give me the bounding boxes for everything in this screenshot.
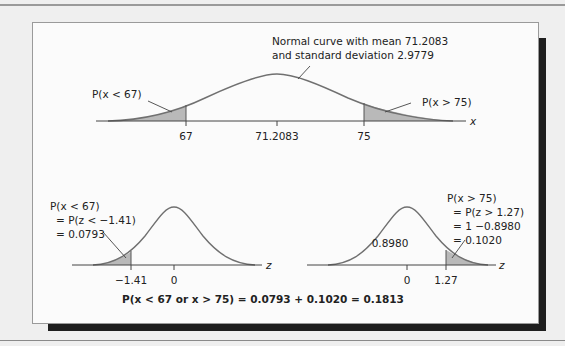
tick-label-neg-1-41: −1.41 [115, 274, 147, 286]
top-normal-curve-plot [96, 66, 466, 126]
bl-line1: P(x < 67) [50, 200, 100, 212]
summary-equation: P(x < 67 or x > 75) = 0.0793 + 0.1020 = … [122, 293, 404, 305]
z-axis-label-right: z [498, 259, 505, 271]
curve-annotation-line1: Normal curve with mean 71.2083 [272, 35, 448, 47]
normal-distribution-figure: Normal curve with mean 71.2083 and stand… [0, 0, 565, 346]
tick-label-mean: 71.2083 [255, 130, 298, 142]
right-area-label: P(x > 75) [422, 96, 472, 108]
center-area-label: 0.8980 [372, 237, 409, 249]
bl-line2: = P(z < −1.41) [56, 214, 136, 226]
br-line4: = 0.1020 [453, 234, 502, 246]
br-line2: = P(z > 1.27) [453, 206, 524, 218]
br-line1: P(x > 75) [447, 192, 497, 204]
left-tail-shaded-area [108, 106, 186, 121]
tick-label-67: 67 [179, 130, 192, 142]
z-axis-label-left: z [265, 259, 272, 271]
br-line3: = 1 −0.8980 [453, 220, 521, 232]
curve-annotation-line2: and standard deviation 2.9779 [272, 49, 434, 61]
tick-label-75: 75 [357, 130, 370, 142]
tick-label-zero-right: 0 [404, 274, 411, 286]
tick-label-zero-left: 0 [171, 274, 178, 286]
left-area-label: P(x < 67) [92, 88, 142, 100]
x-axis-label: x [469, 115, 477, 127]
normal-curve-x [108, 74, 453, 121]
bl-line3: = 0.0793 [56, 228, 105, 240]
tick-label-1-27: 1.27 [434, 274, 457, 286]
